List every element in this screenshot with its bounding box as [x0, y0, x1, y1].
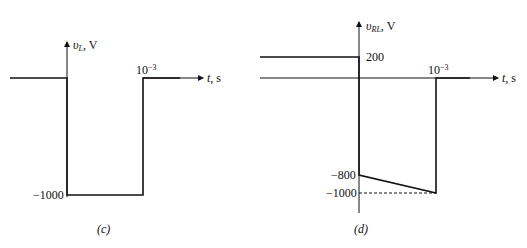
- panel-c: υL, V 10−3 t, s −1000 (c): [10, 38, 221, 236]
- c-y-tick-neg1000: −1000: [33, 188, 64, 202]
- d-waveform: [260, 57, 470, 193]
- d-y-tick-200: 200: [366, 50, 384, 64]
- c-x-label: t, s: [207, 71, 221, 85]
- d-x-tick: 10−3: [428, 63, 449, 77]
- d-x-label: t, s: [502, 71, 516, 85]
- d-caption: (d): [354, 222, 368, 236]
- c-caption: (c): [97, 222, 110, 236]
- c-waveform: [10, 78, 180, 195]
- d-y-label: υRL, V: [366, 19, 396, 34]
- diagram-canvas: υL, V 10−3 t, s −1000 (c) υRL, V 200 10−…: [0, 0, 527, 248]
- d-y-tick-neg800: −800: [331, 168, 356, 182]
- c-x-tick: 10−3: [136, 63, 157, 77]
- figure: υL, V 10−3 t, s −1000 (c) υRL, V 200 10−…: [0, 0, 527, 248]
- c-y-label: υL, V: [73, 38, 98, 53]
- d-y-tick-neg1000: −1000: [326, 186, 357, 200]
- panel-d: υRL, V 200 10−3 t, s −800 −1000 (d): [260, 19, 516, 236]
